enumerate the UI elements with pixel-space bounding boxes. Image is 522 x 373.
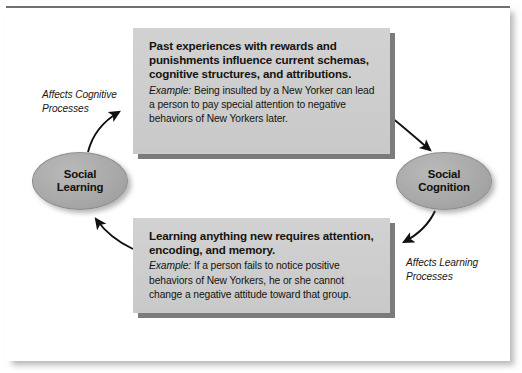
box-bottom-example: Example: If a person fails to notice pos… [149,259,376,302]
node-social-cognition: Social Cognition [396,152,492,210]
node-social-learning-label: Social Learning [57,168,104,195]
node-social-learning: Social Learning [32,152,128,210]
box-top-example-label: Example: [149,85,191,96]
box-bottom-example-label: Example: [149,260,191,271]
box-top-heading: Past experiences with rewards and punish… [149,39,376,82]
diagram-figure: Past experiences with rewards and punish… [0,0,522,373]
box-bottom-heading: Learning anything new requires attention… [149,229,376,257]
annotation-affects-cognitive-processes: Affects Cognitive Processes [42,88,152,115]
annotation-affects-learning-processes: Affects Learning Processes [406,256,516,283]
node-social-cognition-label: Social Cognition [418,168,469,195]
content-box-top: Past experiences with rewards and punish… [133,28,390,154]
box-top-example: Example: Being insulted by a New Yorker … [149,84,376,127]
content-box-bottom: Learning anything new requires attention… [133,218,390,313]
